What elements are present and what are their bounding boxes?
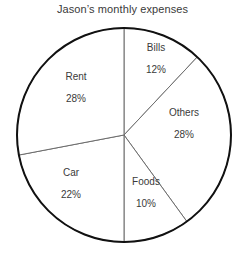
pie-slice-group [17, 28, 231, 242]
pie-svg [0, 0, 245, 257]
pie-slice-rent [17, 28, 124, 155]
pie-chart: Jason’s monthly expenses Bills12%Others2… [0, 0, 245, 257]
